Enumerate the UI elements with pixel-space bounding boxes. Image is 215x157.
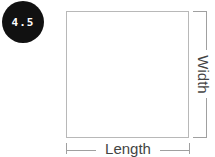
width-label-box: Width: [193, 50, 213, 98]
dimension-lines: [0, 0, 215, 157]
width-label: Width: [195, 55, 212, 93]
length-label: Length: [96, 141, 160, 157]
